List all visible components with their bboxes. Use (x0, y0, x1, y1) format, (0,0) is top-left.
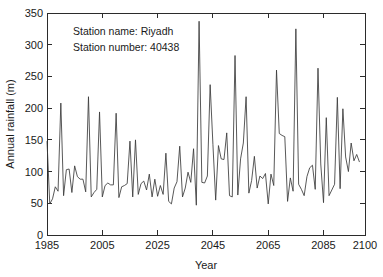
y-tick-label: 50 (31, 197, 43, 209)
y-axis-title: Annual rainfall (m) (4, 79, 16, 168)
rainfall-line-chart: 0 50 100 150 200 250 300 350 1985 2005 2… (0, 0, 383, 277)
annotation-station-name: Station name: Riyadh (73, 25, 174, 37)
x-tick-labels: 1985 2005 2025 2045 2065 2085 2100 (35, 239, 377, 251)
x-tick-label: 2045 (201, 239, 225, 251)
x-tick-label: 2100 (353, 239, 377, 251)
x-tick-label: 2065 (256, 239, 280, 251)
annotation-station-number: Station number: 40438 (73, 41, 179, 53)
chart-figure: 0 50 100 150 200 250 300 350 1985 2005 2… (0, 0, 383, 277)
x-tick-label: 2085 (311, 239, 335, 251)
y-tick-label: 100 (25, 166, 43, 178)
y-tick-labels: 0 50 100 150 200 250 300 350 (25, 7, 43, 241)
x-tick-label: 2005 (90, 239, 114, 251)
y-tick-label: 350 (25, 7, 43, 19)
x-tick-label: 2025 (145, 239, 169, 251)
y-tick-label: 200 (25, 102, 43, 114)
x-tick-label: 1985 (35, 239, 59, 251)
y-tick-label: 250 (25, 70, 43, 82)
y-tick-label: 300 (25, 39, 43, 51)
y-tick-label: 150 (25, 134, 43, 146)
x-axis-title: Year (195, 259, 218, 271)
